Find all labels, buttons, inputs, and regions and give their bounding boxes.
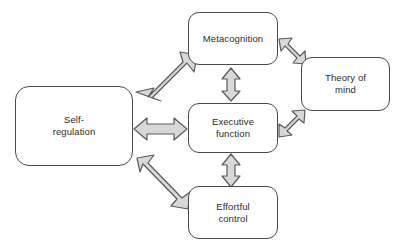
arrow-executive-function-theory-of-mind xyxy=(279,110,305,137)
node-self-regulation-label: Self- regulation xyxy=(53,114,96,138)
node-executive-function-label: Executive function xyxy=(212,116,254,140)
arrow-metacognition-executive-function xyxy=(222,68,240,101)
node-self-regulation[interactable]: Self- regulation xyxy=(15,86,133,166)
arrow-self-regulation-executive-function xyxy=(134,118,187,140)
arrow-executive-function-effortful-control xyxy=(222,154,240,187)
node-theory-of-mind-label: Theory of mind xyxy=(325,72,366,96)
node-effortful-control-label: Effortful control xyxy=(216,201,249,225)
node-effortful-control[interactable]: Effortful control xyxy=(188,186,278,239)
node-executive-function[interactable]: Executive function xyxy=(188,103,278,153)
arrow-self-regulation-metacognition xyxy=(136,52,197,101)
node-metacognition-label: Metacognition xyxy=(203,33,263,45)
node-theory-of-mind[interactable]: Theory of mind xyxy=(301,57,390,111)
concept-diagram: Metacognition Theory of mind Self- regul… xyxy=(0,0,401,251)
arrow-self-regulation-effortful-control xyxy=(137,155,190,209)
arrow-metacognition-theory-of-mind xyxy=(279,38,306,64)
node-metacognition[interactable]: Metacognition xyxy=(188,12,278,65)
